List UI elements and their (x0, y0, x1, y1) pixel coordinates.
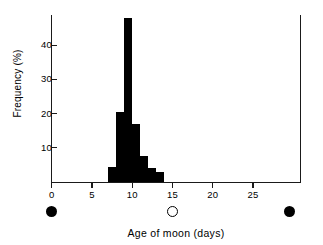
x-tick-label: 20 (201, 190, 225, 200)
moon-age-histogram-figure: 10203040 0510152025 Frequency (%) Age of… (0, 0, 323, 245)
x-tick-label: 0 (40, 190, 64, 200)
new-moon-icon (46, 206, 57, 217)
y-tick-mark (52, 45, 57, 46)
y-tick-label: 40 (30, 40, 52, 50)
x-tick-mark (51, 183, 52, 188)
y-axis-label: Frequency (%) (12, 29, 23, 139)
x-tick-mark (132, 183, 133, 188)
new-moon-icon (284, 206, 295, 217)
y-tick-label-wrap: 20 (0, 109, 52, 119)
y-tick-label: 30 (30, 74, 52, 84)
histogram-bar (108, 167, 116, 182)
x-tick-label: 5 (80, 190, 104, 200)
y-tick-label: 20 (30, 109, 52, 119)
y-tick-label-wrap: 10 (0, 143, 52, 153)
x-tick-label: 10 (120, 190, 144, 200)
x-axis-line (51, 182, 301, 183)
y-tick-label: 10 (30, 143, 52, 153)
histogram-bar (124, 18, 132, 182)
x-tick-mark (252, 183, 253, 188)
x-tick-mark (212, 183, 213, 188)
y-tick-mark (52, 113, 57, 114)
y-tick-mark (52, 79, 57, 80)
x-tick-label: 25 (241, 190, 265, 200)
y-tick-mark (52, 147, 57, 148)
histogram-bar (116, 112, 124, 182)
histogram-bar (156, 172, 164, 182)
histogram-bar (148, 168, 156, 182)
x-tick-mark (91, 183, 92, 188)
x-tick-label: 15 (160, 190, 184, 200)
x-tick-mark (172, 183, 173, 188)
full-moon-icon (167, 206, 178, 217)
y-tick-label-wrap: 40 (0, 40, 52, 50)
y-tick-label-wrap: 30 (0, 74, 52, 84)
right-axis-line (300, 15, 301, 183)
x-axis-label: Age of moon (days) (51, 227, 301, 239)
histogram-bar (132, 124, 140, 182)
histogram-bar (140, 156, 148, 182)
